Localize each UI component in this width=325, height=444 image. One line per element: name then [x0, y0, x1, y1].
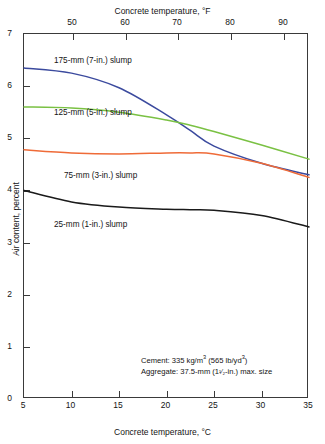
chart-figure: Concrete temperature, °F Concrete temper… [0, 0, 325, 444]
top-tick-label-80: 80 [225, 17, 234, 27]
annotation-cement-prefix: Cement: 335 kg/m [141, 356, 203, 365]
y-tick-label-1: 1 [7, 341, 12, 351]
y-tick-label-7: 7 [7, 28, 12, 38]
bottom-tick-label-25: 25 [208, 400, 217, 410]
annotation-aggregate-line: Aggregate: 37.5-mm (1¹⁄₂-in.) max. size [141, 367, 272, 378]
series-label-125mm: 125-mm (5-in.) slump [54, 108, 132, 117]
y-tick-label-6: 6 [7, 80, 12, 90]
annotation-aggregate-suffix: -in.) max. size [225, 367, 272, 376]
curve-layer [24, 34, 309, 399]
bottom-tick-label-10: 10 [66, 400, 75, 410]
y-tick-label-3: 3 [7, 237, 12, 247]
y-tick-label-4: 4 [7, 184, 12, 194]
y-tick-label-5: 5 [7, 132, 12, 142]
series-line-175mm [24, 68, 309, 175]
annotation-cement-suffix: ) [245, 356, 248, 365]
annotation-cement-mid: (565 lb/yd [206, 356, 241, 365]
annotation-block: Cement: 335 kg/m3 (565 lb/yd3) Aggregate… [141, 356, 272, 377]
series-label-25mm: 25-mm (1-in.) slump [54, 220, 127, 229]
plot-area: 175-mm (7-in.) slump 125-mm (5-in.) slum… [23, 33, 308, 398]
series-label-175mm: 175-mm (7-in.) slump [54, 56, 132, 65]
annotation-aggregate-prefix: Aggregate: 37.5-mm (1 [141, 367, 219, 376]
bottom-tick-label-35: 35 [303, 400, 312, 410]
bottom-tick-label-30: 30 [256, 400, 265, 410]
top-tick-label-90: 90 [278, 17, 287, 27]
bottom-tick-label-20: 20 [161, 400, 170, 410]
series-label-75mm: 75-mm (3-in.) slump [64, 171, 137, 180]
top-tick-label-60: 60 [120, 17, 129, 27]
bottom-tick-label-15: 15 [113, 400, 122, 410]
bottom-axis-title: Concrete temperature, °C [0, 427, 325, 437]
top-tick-label-70: 70 [172, 17, 181, 27]
y-axis-title: Air content, percent [11, 159, 21, 279]
y-tick-label-0: 0 [7, 393, 12, 403]
top-axis-title: Concrete temperature, °F [0, 6, 325, 16]
bottom-tick-label-5: 5 [21, 400, 26, 410]
annotation-cement-line: Cement: 335 kg/m3 (565 lb/yd3) [141, 356, 272, 367]
y-tick-label-2: 2 [7, 289, 12, 299]
top-tick-label-50: 50 [67, 17, 76, 27]
